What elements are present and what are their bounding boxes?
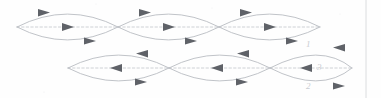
annotation-3: 3 bbox=[316, 62, 322, 72]
bottom-cell-2-axis-arrow bbox=[211, 64, 223, 72]
top-cell-3-upper-arrow bbox=[240, 9, 252, 17]
top-cell-1-lower-arrow bbox=[84, 38, 96, 45]
bottom-cell-2-lower-arrow bbox=[236, 79, 248, 86]
bottom-cell-2-upper-arrow bbox=[237, 50, 249, 58]
top-cell-3-lower-arrow bbox=[286, 38, 298, 45]
bottom-cell-3-upper-arrow bbox=[333, 44, 345, 52]
top-cell-2-upper-arrow bbox=[139, 9, 151, 17]
bottom-cell-1-upper-arrow bbox=[136, 50, 148, 58]
top-cell-2-axis-arrow bbox=[163, 23, 175, 31]
top-cell-3-axis-arrow bbox=[264, 23, 276, 31]
bottom-cell-1-axis-arrow bbox=[110, 64, 122, 72]
lens-chain-diagram: 1 3 2 bbox=[0, 0, 381, 98]
top-cell-1-axis-arrow bbox=[62, 23, 74, 31]
top-cell-1-upper-arrow bbox=[38, 9, 50, 17]
bottom-cell-3 bbox=[270, 44, 352, 90]
bottom-cell-3-axis-arrow bbox=[300, 64, 312, 72]
annotation-group: 1 3 2 bbox=[306, 39, 322, 91]
bottom-cell-1-lower-arrow bbox=[135, 79, 147, 86]
top-row-group bbox=[17, 9, 320, 45]
annotation-2: 2 bbox=[306, 81, 311, 91]
annotation-1: 1 bbox=[306, 39, 311, 49]
diagram-canvas: 1 3 2 bbox=[0, 0, 381, 98]
bottom-cell-3-lower-arrow bbox=[333, 83, 345, 90]
top-cell-2-lower-arrow bbox=[185, 38, 197, 45]
